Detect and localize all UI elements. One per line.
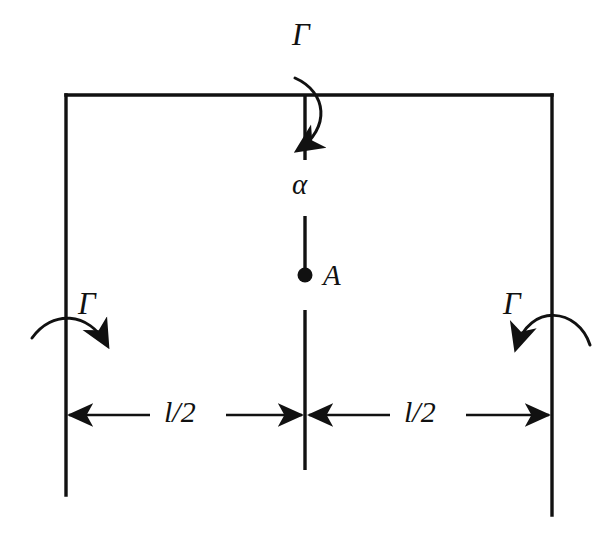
engineering-diagram: Γ Γ Γ α A l/2 l/2 xyxy=(0,0,614,545)
angle-label-alpha: α xyxy=(292,170,307,199)
point-label-a: A xyxy=(323,261,341,290)
frame-structure xyxy=(66,95,552,515)
torque-label-right: Γ xyxy=(503,288,521,319)
torque-arrow-top xyxy=(295,78,321,150)
dimension-label-right: l/2 xyxy=(404,397,436,427)
dimension-label-left: l/2 xyxy=(164,397,196,427)
torque-arrow-left xyxy=(32,318,107,345)
torque-label-top: Γ xyxy=(292,19,310,50)
torque-label-left: Γ xyxy=(78,288,96,319)
point-a-marker xyxy=(298,268,313,283)
diagram-canvas xyxy=(0,0,614,545)
